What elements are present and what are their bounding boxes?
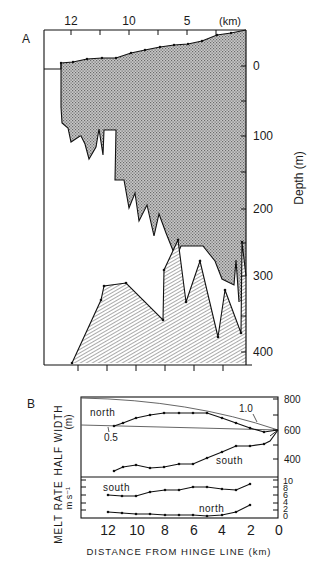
x-tick-10: 10 [129,522,145,538]
depth-tick-200: 200 [253,202,273,216]
panel-a: A 12 10 5 (km) [22,14,306,371]
north-half-width-points [113,412,266,434]
top-tick-5: 5 [184,14,191,28]
top-tick-12: 12 [64,14,78,28]
x-tick-2: 2 [247,522,255,538]
contour-1-leader [253,414,257,422]
south-half-width-line [114,430,278,471]
ice-shelf-area [61,30,246,302]
half-width-tick-800: 800 [284,394,301,405]
bottom-axis-ticks [78,365,223,371]
figure: A 12 10 5 (km) [0,0,322,572]
panel-a-label: A [22,32,30,46]
half-width-tick-400: 400 [284,454,301,465]
depth-axis-label: Depth (m) [292,151,306,204]
top-axis-unit: (km) [219,15,241,27]
south-label-upper: south [216,455,243,466]
panel-b-label: B [27,397,35,411]
contour-1-label: 1.0 [239,403,253,414]
melt-rate-label: MELT RATE [53,480,64,543]
x-tick-6: 6 [190,522,198,538]
depth-tick-100: 100 [253,129,273,143]
depth-tick-300: 300 [253,269,273,283]
x-tick-8: 8 [161,522,169,538]
north-label-upper: north [90,407,115,418]
top-tick-10: 10 [122,14,136,28]
north-label-lower: north [199,503,224,514]
north-melt-points [107,504,252,518]
melt-tick-0: 0 [283,511,288,521]
x-tick-4: 4 [218,522,226,538]
x-tick-0: 0 [275,522,283,538]
south-label-lower: south [103,482,130,493]
contour-05-label: 0.5 [104,432,118,443]
top-axis-ticks [71,30,216,35]
depth-tick-400: 400 [253,345,273,359]
half-width-tick-600: 600 [284,425,301,436]
x-axis-label: DISTANCE FROM HINGE LINE (km) [86,546,271,557]
x-tick-12: 12 [100,522,116,538]
depth-tick-0: 0 [253,59,260,73]
half-width-unit: (m) [63,415,74,430]
melt-rate-unit: m s⁻¹ [64,487,74,509]
panel-b: B HALF WIDTH (m) MELT RATE m s⁻¹ n [27,394,301,557]
